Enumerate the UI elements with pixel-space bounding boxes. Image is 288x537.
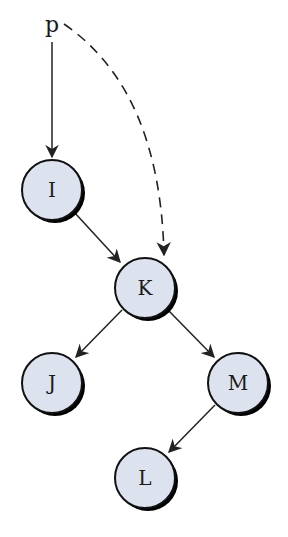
- tree-node-J: J: [22, 353, 85, 416]
- node-label-L: L: [138, 466, 151, 490]
- edge-I-to-K: [74, 212, 120, 262]
- tree-node-M: M: [208, 353, 271, 416]
- tree-node-K: K: [115, 258, 178, 321]
- node-label-J: J: [46, 371, 56, 395]
- edge-K-to-J: [76, 310, 122, 357]
- pointer-label-p: p: [45, 12, 59, 37]
- edge-M-to-L: [169, 405, 215, 452]
- node-label-M: M: [228, 371, 248, 395]
- node-label-K: K: [138, 276, 154, 300]
- tree-node-L: L: [115, 448, 178, 511]
- tree-diagram: p I K J M L: [0, 0, 288, 537]
- tree-node-I: I: [22, 160, 85, 223]
- node-label-I: I: [48, 178, 56, 202]
- edge-K-to-M: [168, 310, 214, 357]
- edge-p-to-K-dashed: [64, 24, 164, 255]
